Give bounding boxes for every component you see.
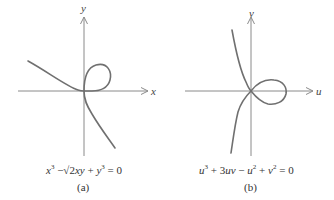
panel-b-caption: (b) [244,182,257,193]
curve-upper-branch [232,30,251,91]
panel-a-caption: (a) [77,182,89,193]
eq-op: + 3 [208,164,225,176]
u-axis-label: u [316,86,322,97]
eq-op: + [85,164,97,176]
eq-op: − [54,164,63,176]
panel-b-axes [185,17,313,156]
eq-op: − [236,164,248,176]
panel-a-equation: x3 −√2xy + y3 = 0 [46,164,122,176]
v-axis-label: v [249,8,254,19]
eq-term: uv [225,164,235,176]
eq-op: + [256,164,268,176]
panel-a-curve [28,61,115,148]
curve-left-branch [28,61,84,91]
panel-a-axes [18,17,148,156]
curve-loop [84,64,110,91]
eq-sqrt: √2 [63,164,75,176]
y-axis-label: y [81,3,86,14]
eq-term: xy [75,164,85,176]
eq-op: = 0 [276,164,293,176]
panel-b-equation: u3 + 3uv − u2 + v2 = 0 [199,164,294,176]
eq-op: = 0 [105,164,122,176]
x-axis-label: x [151,86,156,97]
curve-loop [251,80,286,104]
curve-lower-branch [231,91,251,153]
curve-lower-branch [84,91,115,148]
